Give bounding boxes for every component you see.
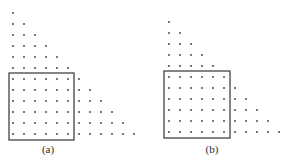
dot	[34, 122, 36, 124]
dot	[23, 111, 25, 113]
dot	[245, 98, 247, 100]
dot	[168, 109, 170, 111]
dot	[201, 131, 203, 133]
dot	[45, 89, 47, 91]
dot	[45, 45, 47, 47]
dot	[168, 120, 170, 122]
dot	[34, 45, 36, 47]
dot	[34, 133, 36, 135]
dot	[223, 98, 225, 100]
panel-b-square-box	[164, 71, 230, 138]
panel-b-dots	[168, 21, 280, 133]
dot	[190, 65, 192, 67]
dot	[179, 109, 181, 111]
dot	[179, 65, 181, 67]
dot	[45, 100, 47, 102]
dot	[45, 78, 47, 80]
dot	[179, 43, 181, 45]
dot	[67, 111, 69, 113]
dot	[23, 45, 25, 47]
dot	[12, 133, 14, 135]
dot	[201, 120, 203, 122]
dot	[23, 34, 25, 36]
dot	[12, 67, 14, 69]
dot	[190, 98, 192, 100]
dot	[234, 98, 236, 100]
dot	[67, 67, 69, 69]
dot	[78, 78, 80, 80]
dot	[267, 131, 269, 133]
dot	[168, 65, 170, 67]
dot	[245, 109, 247, 111]
dot	[78, 133, 80, 135]
dot	[89, 89, 91, 91]
dot	[190, 120, 192, 122]
dot	[190, 131, 192, 133]
dot	[34, 100, 36, 102]
dot	[190, 109, 192, 111]
dot	[168, 43, 170, 45]
dot	[179, 120, 181, 122]
dot	[168, 54, 170, 56]
dot	[12, 89, 14, 91]
dot	[168, 21, 170, 23]
dot	[212, 65, 214, 67]
dot	[122, 133, 124, 135]
dot	[190, 43, 192, 45]
dot	[89, 122, 91, 124]
dot	[89, 111, 91, 113]
dot	[56, 56, 58, 58]
dot	[100, 133, 102, 135]
dot	[23, 122, 25, 124]
dot	[67, 122, 69, 124]
panel-b-caption: (b)	[206, 143, 219, 155]
dot	[179, 131, 181, 133]
dot	[201, 76, 203, 78]
dot	[100, 100, 102, 102]
dot	[56, 67, 58, 69]
dot	[23, 133, 25, 135]
dot	[12, 23, 14, 25]
dot	[168, 32, 170, 34]
dot	[23, 100, 25, 102]
dot	[67, 78, 69, 80]
dot	[168, 98, 170, 100]
dot	[45, 111, 47, 113]
dot	[78, 111, 80, 113]
dot	[201, 98, 203, 100]
dot	[179, 54, 181, 56]
panel-b	[164, 21, 280, 138]
dot	[78, 122, 80, 124]
dot	[223, 120, 225, 122]
dot	[67, 133, 69, 135]
dot	[212, 76, 214, 78]
dot	[278, 131, 280, 133]
dot	[179, 98, 181, 100]
dot	[179, 76, 181, 78]
dot	[234, 109, 236, 111]
dot	[34, 67, 36, 69]
panel-a-caption: (a)	[42, 143, 54, 155]
dot	[111, 133, 113, 135]
dot	[12, 111, 14, 113]
dot	[111, 111, 113, 113]
dot	[212, 87, 214, 89]
dot	[100, 111, 102, 113]
dot	[45, 122, 47, 124]
dot	[212, 120, 214, 122]
dot	[89, 133, 91, 135]
dot-triangle-figure	[0, 0, 288, 165]
dot	[256, 120, 258, 122]
dot	[245, 131, 247, 133]
dot	[23, 78, 25, 80]
dot	[234, 131, 236, 133]
dot	[78, 89, 80, 91]
dot	[245, 120, 247, 122]
dot	[168, 76, 170, 78]
dot	[23, 23, 25, 25]
dot	[67, 100, 69, 102]
dot	[256, 109, 258, 111]
dot	[45, 133, 47, 135]
dot	[12, 45, 14, 47]
dot	[23, 67, 25, 69]
